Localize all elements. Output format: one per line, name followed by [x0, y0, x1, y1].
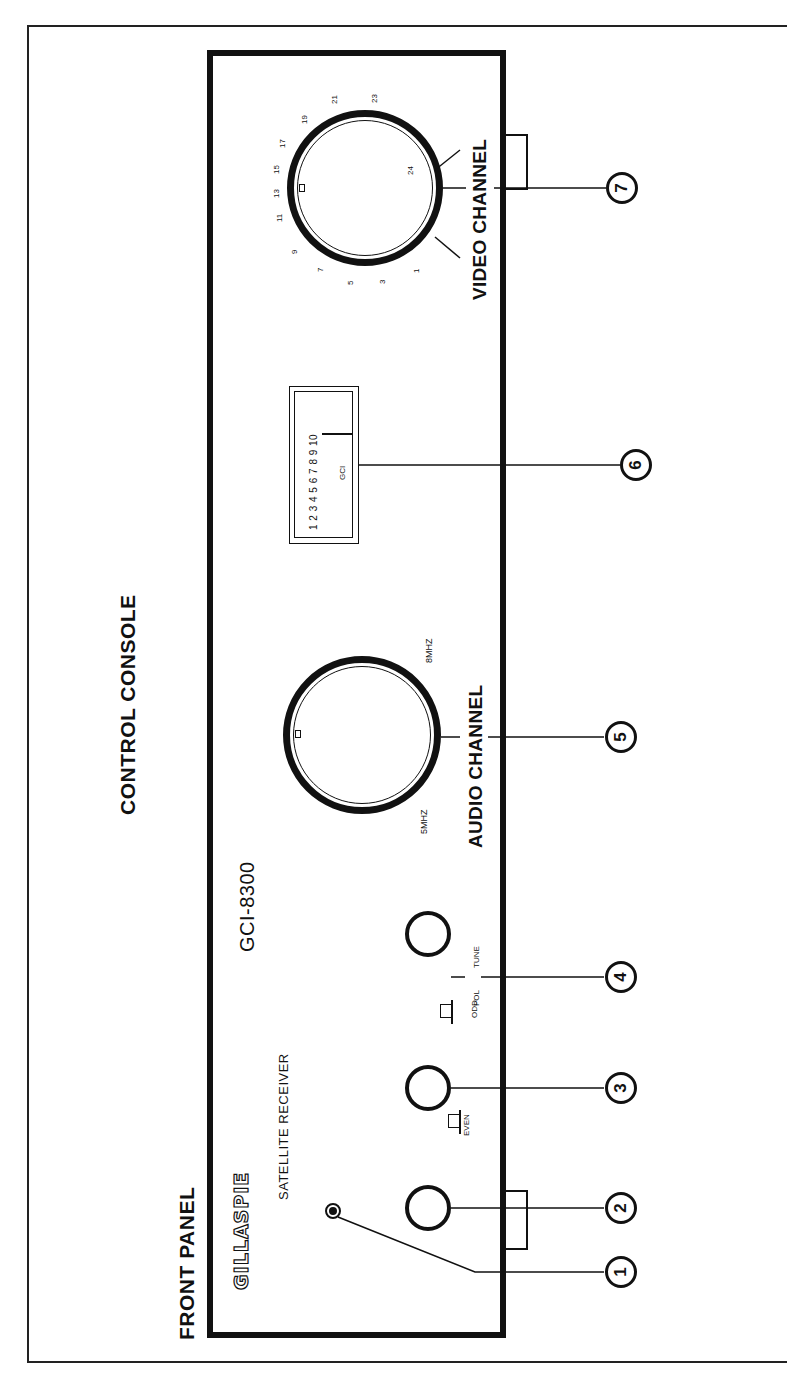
callout-2: 2: [605, 1192, 637, 1224]
callout-6: 6: [620, 449, 652, 481]
callout-4: 4: [605, 961, 637, 993]
callout-5: 5: [605, 721, 637, 753]
callout-3: 3: [605, 1072, 637, 1104]
callout-7: 7: [606, 172, 638, 204]
callout-1: 1: [605, 1256, 637, 1288]
